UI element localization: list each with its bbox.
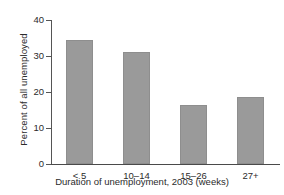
y-tick-mark xyxy=(46,92,51,93)
bar-chart-figure: Percent of all unemployed 0 10 20 30 40 xyxy=(0,0,284,195)
y-tick-mark xyxy=(46,56,51,57)
y-tick-label: 20 xyxy=(33,86,44,97)
x-axis-title: Duration of unemployment, 2003 (weeks) xyxy=(0,176,284,187)
plot-area: 0 10 20 30 40 < 5 10–14 15–26 27+ xyxy=(51,20,279,164)
y-tick-label: 40 xyxy=(33,14,44,25)
bar-3 xyxy=(237,97,264,164)
y-tick-label: 10 xyxy=(33,122,44,133)
y-axis-title: Percent of all unemployed xyxy=(18,10,29,170)
bar-2 xyxy=(180,105,207,164)
y-tick-mark xyxy=(46,164,51,165)
x-axis-line xyxy=(51,164,280,165)
y-tick-mark xyxy=(46,128,51,129)
bar-0 xyxy=(66,40,93,164)
bar-1 xyxy=(123,52,150,164)
y-tick-label: 30 xyxy=(33,50,44,61)
y-axis-line xyxy=(51,20,52,165)
y-tick-label: 0 xyxy=(39,158,44,169)
y-tick-mark xyxy=(46,20,51,21)
